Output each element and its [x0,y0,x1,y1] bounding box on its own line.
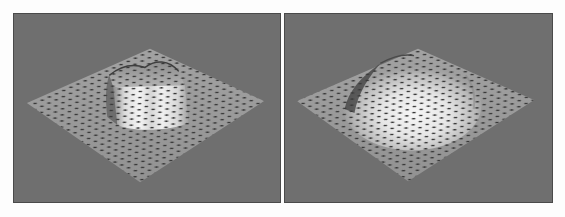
grid-dots [27,49,264,183]
surface-plot-plateau [14,14,280,202]
surface-plot-dome [285,14,552,202]
render-panel-right [284,13,553,203]
render-panel-left [13,13,281,203]
grid-dots [297,49,534,182]
